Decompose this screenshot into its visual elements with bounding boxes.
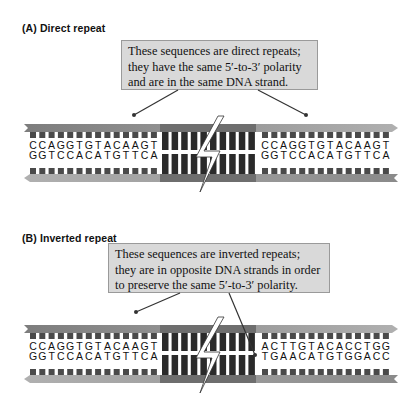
base-block <box>49 168 55 174</box>
base-block <box>336 168 342 174</box>
base-block <box>336 333 342 339</box>
spacer-pair <box>172 154 179 174</box>
base-block <box>281 333 287 339</box>
base-block <box>67 333 73 339</box>
base-block <box>114 333 120 339</box>
base-letter: G <box>38 149 46 161</box>
base-block <box>58 168 64 174</box>
spacer-pair <box>181 132 188 150</box>
base-letter: C <box>317 149 325 161</box>
base-letter: A <box>382 149 389 161</box>
base-block <box>151 168 157 174</box>
base-block <box>346 168 352 174</box>
base-block <box>327 369 333 375</box>
spacer-pair <box>162 132 169 150</box>
base-block <box>299 369 305 375</box>
base-letter: C <box>66 149 74 161</box>
base-letter: T <box>132 149 139 161</box>
base-block <box>58 132 64 138</box>
base-block <box>95 132 101 138</box>
base-letter: A <box>76 149 83 161</box>
base-block <box>30 132 36 138</box>
base-block <box>39 369 45 375</box>
base-letter: C <box>57 149 65 161</box>
spacer-pair <box>162 333 169 351</box>
base-block <box>364 132 370 138</box>
base-block <box>355 333 361 339</box>
base-block <box>262 369 268 375</box>
base-letter: T <box>262 350 269 362</box>
spacer-pair <box>220 132 227 150</box>
base-letter: T <box>336 350 343 362</box>
base-letter: A <box>95 350 102 362</box>
base-block <box>39 132 45 138</box>
base-block <box>114 369 120 375</box>
base-letter: C <box>289 149 297 161</box>
base-block <box>142 333 148 339</box>
base-letter: C <box>57 350 65 362</box>
base-block <box>364 369 370 375</box>
spacer-pair <box>248 154 255 174</box>
base-block <box>58 333 64 339</box>
spacer-pair <box>248 355 255 375</box>
base-block <box>374 333 380 339</box>
base-block <box>364 333 370 339</box>
base-letter: A <box>308 149 315 161</box>
base-block <box>67 132 73 138</box>
base-letter: C <box>298 350 306 362</box>
base-block <box>327 132 333 138</box>
base-block <box>77 168 83 174</box>
base-block <box>30 168 36 174</box>
spacer-pair <box>162 154 169 174</box>
base-block <box>336 132 342 138</box>
base-letter: A <box>150 350 157 362</box>
base-block <box>30 333 36 339</box>
spacer-pair <box>181 333 188 351</box>
spacer-pair <box>239 333 246 351</box>
base-block <box>151 369 157 375</box>
base-letter: T <box>364 149 371 161</box>
base-block <box>95 369 101 375</box>
base-block <box>132 132 138 138</box>
base-block <box>49 132 55 138</box>
base-letter: A <box>289 350 296 362</box>
spacer-pair <box>229 333 236 351</box>
base-block <box>336 369 342 375</box>
base-letter: G <box>29 149 37 161</box>
base-block <box>114 168 120 174</box>
spacer-backbone-top <box>160 325 256 333</box>
base-letter: C <box>382 350 390 362</box>
spacer-pair <box>229 154 236 174</box>
base-letter: G <box>29 350 37 362</box>
base-block <box>123 168 129 174</box>
base-block <box>309 168 315 174</box>
base-block <box>123 132 129 138</box>
base-block <box>104 333 110 339</box>
base-letter: C <box>85 350 93 362</box>
spacer-pair <box>248 132 255 150</box>
base-block <box>123 333 129 339</box>
base-block <box>309 132 315 138</box>
base-letter: T <box>355 149 362 161</box>
base-block <box>77 132 83 138</box>
base-letter: A <box>308 350 315 362</box>
base-block <box>309 333 315 339</box>
base-block <box>95 333 101 339</box>
pointer-dot <box>253 353 257 357</box>
base-block <box>318 132 324 138</box>
base-block <box>123 369 129 375</box>
base-block <box>355 369 361 375</box>
base-letter: T <box>280 149 287 161</box>
base-block <box>86 333 92 339</box>
base-letter: A <box>280 350 287 362</box>
base-block <box>327 168 333 174</box>
base-block <box>290 132 296 138</box>
base-letter: G <box>113 149 121 161</box>
base-block <box>58 369 64 375</box>
base-block <box>355 132 361 138</box>
base-block <box>114 132 120 138</box>
base-letter: C <box>141 149 149 161</box>
base-block <box>132 333 138 339</box>
base-block <box>346 333 352 339</box>
base-letter: C <box>298 149 306 161</box>
